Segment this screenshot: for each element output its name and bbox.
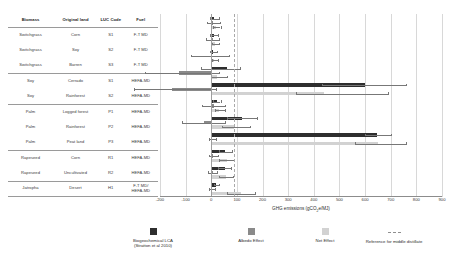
chart-plot-area [160, 14, 442, 197]
error-cap-high [231, 167, 232, 170]
x-tick-label: 500 [336, 197, 343, 202]
chart-error-bar [213, 27, 221, 28]
table-row: SwitchgrassSoyS2F-T MD [8, 42, 158, 57]
chart-row-group [160, 81, 442, 98]
error-cap-high [232, 150, 233, 153]
chart-error-bar [208, 173, 217, 174]
chart-legend: Biogeochemical LCA(Stratton et al 2010)A… [118, 228, 438, 260]
chart-error-bar [365, 135, 391, 136]
chart-row-group [160, 130, 442, 147]
cell-biomass: Jatropha [8, 181, 53, 196]
error-cap-high [225, 109, 226, 112]
cell-luc-code: R2 [98, 166, 124, 181]
cell-biomass: Switchgrass [8, 27, 53, 42]
chart-x-axis-title: GHG emissions (gCO2e/MJ) [160, 206, 442, 213]
column-header-fuel: Fuel [124, 14, 159, 27]
x-axis-title-post: e/MJ) [318, 206, 329, 211]
error-cap-low [213, 100, 214, 103]
chart-error-bar [145, 73, 219, 74]
error-cap-low [209, 188, 210, 191]
x-tick-label: 0 [210, 197, 212, 202]
cell-biomass: Rapeseed [8, 150, 53, 165]
cell-luc-code: R1 [98, 150, 124, 165]
cell-original-land: Cerrado [53, 73, 98, 88]
error-cap-low [206, 38, 207, 41]
column-header-original-land: Original land [53, 14, 98, 27]
cell-original-land: Rainforest [53, 119, 98, 134]
error-cap-low [134, 88, 135, 91]
chart-error-bar [215, 110, 225, 111]
cell-luc-code: S2 [98, 89, 124, 104]
table-row: PalmRainforestP2HEFA-MD [8, 119, 158, 134]
x-tick-label: 400 [310, 197, 317, 202]
error-cap-low [227, 117, 228, 120]
error-cap-low [219, 159, 220, 162]
error-cap-high [215, 188, 216, 191]
chart-error-bar [222, 127, 250, 128]
cell-biomass: Rapeseed [8, 166, 53, 181]
chart-error-bar [182, 123, 225, 124]
chart-row-group [160, 31, 442, 48]
cell-biomass: Soy [8, 73, 53, 88]
legend-item: Biogeochemical LCA(Stratton et al 2010) [118, 228, 188, 249]
legend-swatch [388, 232, 401, 233]
chart-error-bar [227, 194, 255, 195]
chart-error-bar [218, 168, 231, 169]
cell-fuel: HEFA-MD [124, 150, 159, 165]
biomass-pathway-table: Biomass Original land LUC Code Fuel Swit… [8, 14, 158, 197]
legend-item: Reference for middle distillate [350, 228, 438, 244]
table-row: PalmPeat landP3HEFA-MD [8, 135, 158, 150]
x-tick-label: 800 [413, 197, 420, 202]
chart-zero-line [211, 14, 212, 197]
error-cap-high [219, 72, 220, 75]
figure-container: Biomass Original land LUC Code Fuel Swit… [0, 0, 449, 266]
gridline [442, 14, 443, 197]
cell-biomass: Palm [8, 119, 53, 134]
chart-row-group [160, 14, 442, 31]
chart-row-group [160, 97, 442, 114]
error-cap-low [201, 67, 202, 70]
error-cap-high [229, 55, 230, 58]
error-cap-high [255, 192, 256, 195]
error-cap-high [220, 22, 221, 25]
table-body: SwitchgrassCornS1F-T MDSwitchgrassSoyS2F… [8, 27, 158, 197]
cell-original-land: Rainforest [53, 89, 98, 104]
table-row: SwitchgrassCornS1F-T MD [8, 27, 158, 42]
cell-fuel: HEFA-MD [124, 104, 159, 119]
cell-fuel: F-T MD [124, 42, 159, 57]
chart-error-bar [219, 160, 234, 161]
table-row: SoyCerradoS1HEFA-MD [8, 73, 158, 88]
error-cap-low [365, 134, 366, 137]
cell-original-land: Soy [53, 42, 98, 57]
chart-error-bar [211, 77, 226, 78]
error-cap-low [182, 121, 183, 124]
cell-biomass: Palm [8, 135, 53, 150]
legend-label: Reference for middle distillate [350, 239, 438, 245]
error-cap-high [227, 76, 228, 79]
error-cap-low [219, 176, 220, 179]
error-cap-high [219, 43, 220, 46]
legend-label: Albedo Effect [216, 238, 286, 244]
error-cap-low [227, 192, 228, 195]
x-axis-title-pre: GHG emissions (gCO [272, 206, 316, 211]
chart-error-bar [213, 102, 220, 103]
chart-bar [211, 142, 378, 145]
chart-error-bar [134, 89, 216, 90]
error-cap-high [216, 88, 217, 91]
x-tick-label: 900 [439, 197, 446, 202]
error-cap-high [388, 92, 389, 95]
error-cap-low [213, 26, 214, 29]
table-row: RapeseedUncultivatedR2HEFA-MD [8, 166, 158, 181]
error-cap-high [406, 84, 407, 87]
error-cap-high [217, 51, 218, 54]
error-cap-high [406, 142, 407, 145]
cell-fuel: HEFA-MD [124, 73, 159, 88]
table-row: PalmLogged forestP1HEFA-MD [8, 104, 158, 119]
x-tick-label: 100 [233, 197, 240, 202]
error-cap-low [207, 22, 208, 25]
table-row: SoyRainforestS2HEFA-MD [8, 89, 158, 104]
chart-error-bar [322, 85, 407, 86]
chart-row-group [160, 164, 442, 181]
chart-error-bar [191, 56, 229, 57]
x-tick-label: -100 [181, 197, 189, 202]
